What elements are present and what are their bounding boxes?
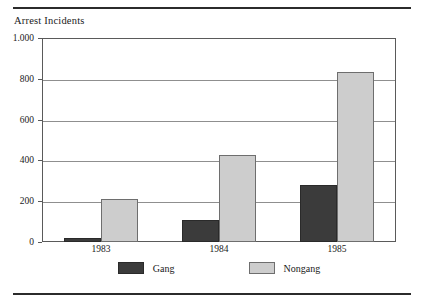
legend-label-gang: Gang (153, 263, 175, 274)
bar-group-1985 (278, 38, 396, 242)
x-axis-labels: 1983 1984 1985 (42, 244, 396, 254)
bar-gang-1984 (182, 220, 219, 242)
x-tick-label-1984: 1984 (160, 244, 278, 254)
y-tick-label-1000: 1.000 (13, 33, 34, 43)
y-tick-label-600: 600 (20, 115, 34, 125)
legend-item-nongang: Nongang (249, 262, 321, 274)
y-tick-mark-0 (38, 242, 42, 243)
y-tick-label-400: 400 (20, 155, 34, 165)
x-tick-label-1983: 1983 (42, 244, 160, 254)
y-tick-label-800: 800 (20, 74, 34, 84)
x-tick-label-1985: 1985 (278, 244, 396, 254)
bar-nongang-1983 (101, 199, 138, 242)
bar-gang-1985 (300, 185, 337, 242)
legend-swatch-gang (118, 262, 144, 274)
y-axis-labels: 1.000 800 600 400 200 0 (0, 38, 38, 242)
y-axis-title: Arrest Incidents (14, 15, 85, 26)
legend-item-gang: Gang (118, 262, 175, 274)
legend-swatch-nongang (249, 262, 275, 274)
bar-gang-1983 (64, 238, 101, 242)
bar-nongang-1984 (219, 155, 256, 242)
legend-label-nongang: Nongang (284, 263, 321, 274)
y-tick-label-0: 0 (29, 237, 34, 247)
chart-legend: Gang Nongang (42, 262, 396, 274)
bar-groups (42, 38, 396, 242)
bar-group-1983 (42, 38, 160, 242)
bar-chart-figure: Arrest Incidents 1.000 800 600 400 200 0 (0, 0, 424, 303)
y-tick-label-200: 200 (20, 196, 34, 206)
bar-group-1984 (160, 38, 278, 242)
bar-nongang-1985 (337, 72, 374, 242)
